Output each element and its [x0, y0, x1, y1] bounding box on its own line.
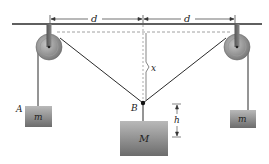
- right-pulley: [224, 24, 250, 60]
- label-M: M: [138, 133, 150, 144]
- label-m-left: m: [34, 112, 43, 122]
- label-d-right: d: [184, 13, 190, 24]
- label-h: h: [174, 115, 180, 125]
- dimension-d: [50, 15, 235, 23]
- dimension-x: [146, 33, 149, 100]
- label-d-left: d: [91, 13, 97, 24]
- label-x: x: [151, 63, 156, 73]
- left-pulley: [36, 24, 62, 60]
- label-m-right: m: [238, 114, 247, 124]
- label-a: A: [15, 104, 23, 114]
- label-b: B: [130, 103, 138, 113]
- point-b: [141, 101, 145, 105]
- pulley-diagram: d d x B m A M: [0, 0, 269, 164]
